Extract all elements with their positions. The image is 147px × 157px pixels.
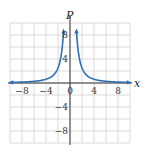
y-tick-label: 4 — [62, 54, 68, 64]
arrow-right-icon — [127, 80, 132, 84]
x-axis-label: x — [134, 77, 141, 90]
curve-left-branch — [11, 32, 63, 83]
x-tick-label: 0 — [67, 86, 73, 96]
x-tick-label: 4 — [91, 86, 97, 96]
x-tick-label: −4 — [39, 86, 53, 96]
x-tick-label: 8 — [115, 86, 121, 96]
y-tick-label: 8 — [62, 30, 68, 40]
arrow-left-icon — [8, 80, 13, 84]
y-tick-label: −4 — [55, 102, 69, 112]
x-tick-label: −8 — [15, 86, 29, 96]
arrow-up-right-icon — [74, 29, 78, 34]
chart: −8−404884−4−8 x P — [0, 0, 147, 157]
curve-right-branch — [76, 32, 128, 83]
y-tick-label: −8 — [55, 126, 69, 136]
y-axis-label: P — [65, 9, 74, 22]
